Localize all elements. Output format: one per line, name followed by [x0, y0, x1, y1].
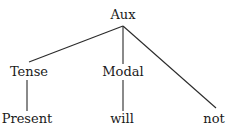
edge-aux-tense: [29, 26, 123, 62]
node-modal: Modal: [102, 64, 143, 79]
node-tense: Tense: [10, 64, 48, 79]
node-aux: Aux: [110, 7, 135, 22]
node-present: Present: [2, 111, 53, 126]
syntax-tree-diagram: Aux Tense Modal Present will not: [0, 0, 234, 133]
node-not: not: [203, 111, 224, 126]
node-will: will: [110, 111, 134, 126]
